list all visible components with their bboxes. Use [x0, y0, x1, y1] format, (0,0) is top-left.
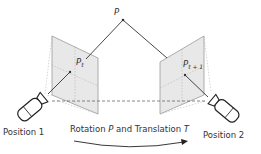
point-pt — [69, 71, 71, 73]
left-image-plane — [45, 36, 98, 114]
right-projection-label: Pt + 1 — [183, 60, 203, 70]
position-1-label: Position 1 — [3, 128, 44, 137]
left-projection-label: Pt — [76, 58, 84, 68]
point-label: P — [114, 8, 119, 17]
point-pt1 — [184, 74, 186, 76]
camera-left-icon — [16, 92, 49, 123]
transform-caption: Rotation P and Translation T — [70, 125, 189, 134]
ray-left — [86, 20, 123, 59]
camera-right-icon — [208, 94, 241, 125]
ray-right — [123, 20, 167, 58]
position-2-label: Position 2 — [203, 131, 244, 140]
point-p — [122, 19, 125, 22]
transform-arrow — [74, 141, 184, 147]
